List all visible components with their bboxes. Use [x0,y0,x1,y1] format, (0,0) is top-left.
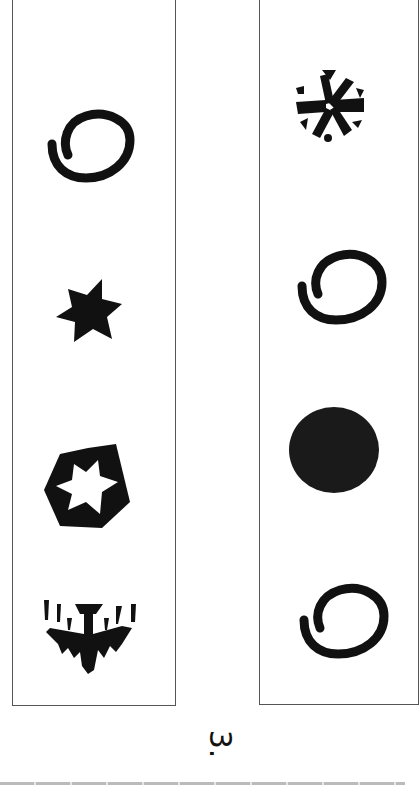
spiral-circle-icon [26,92,142,188]
spiral-circle-icon [276,232,392,332]
filled-circle-icon [288,405,380,495]
pentagon-star-icon [38,442,134,538]
asterisk-circle-icon [294,68,366,144]
figure-label: 3. [200,724,240,764]
spiral-circle-icon [278,566,394,666]
six-point-star-icon [52,277,126,345]
bat-drip-icon [40,596,144,676]
bottom-divider [0,782,405,785]
